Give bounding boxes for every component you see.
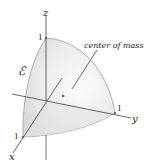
x-axis-label: x xyxy=(9,151,15,162)
y-axis-label: y xyxy=(131,113,138,124)
z-tick-label: 1 xyxy=(38,32,43,42)
center-of-mass-dot xyxy=(62,95,65,98)
z-unit-point xyxy=(45,37,47,39)
y-tick-label: 1 xyxy=(117,103,122,113)
octant-diagram: z y x 1 1 1 ℰ center of mass xyxy=(0,0,148,166)
region-label: ℰ xyxy=(18,64,27,78)
center-of-mass-label: center of mass xyxy=(84,41,144,50)
x-unit-point xyxy=(22,136,24,138)
y-unit-point xyxy=(114,112,116,114)
z-axis-label: z xyxy=(42,7,49,18)
x-tick-label: 1 xyxy=(14,131,19,141)
